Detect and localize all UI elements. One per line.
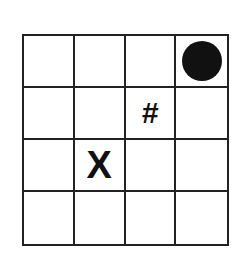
cell-r4-c3[interactable]: [126, 192, 177, 244]
cell-r2-c1[interactable]: [24, 88, 75, 140]
circle-piece-icon: [182, 41, 222, 81]
cell-r4-c4[interactable]: [176, 192, 227, 244]
cell-r1-c3[interactable]: [126, 36, 177, 88]
cell-r3-c4[interactable]: [176, 140, 227, 192]
cell-r3-c1[interactable]: [24, 140, 75, 192]
cell-r1-c2[interactable]: [75, 36, 126, 88]
cell-r1-c4[interactable]: [176, 36, 227, 88]
cell-r2-c2[interactable]: [75, 88, 126, 140]
game-board: # X: [22, 34, 229, 246]
cell-r2-c3[interactable]: #: [126, 88, 177, 140]
cell-r3-c3[interactable]: [126, 140, 177, 192]
cell-r4-c2[interactable]: [75, 192, 126, 244]
x-piece: X: [86, 146, 111, 184]
hash-piece: #: [142, 98, 159, 128]
cell-r2-c4[interactable]: [176, 88, 227, 140]
cell-r3-c2[interactable]: X: [75, 140, 126, 192]
cell-r1-c1[interactable]: [24, 36, 75, 88]
cell-r4-c1[interactable]: [24, 192, 75, 244]
